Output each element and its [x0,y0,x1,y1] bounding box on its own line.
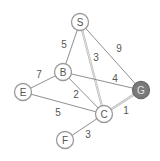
node-label: S [77,17,84,28]
node-label: G [137,85,145,96]
edges-layer [23,22,141,140]
edge-weight-label: 2 [73,89,79,100]
edge-weight-label: 1 [123,105,129,116]
node-b: B [55,64,72,81]
edge-weight-label: 3 [93,52,99,63]
edge-weight-label: 5 [55,107,61,118]
node-g: G [133,82,150,99]
edge-e-c [23,92,104,114]
node-c: C [96,106,113,123]
edge-b-g [63,72,141,90]
weighted-graph-diagram: 539472513 SBECFG [0,0,160,161]
node-f: F [57,132,74,149]
node-label: C [100,109,107,120]
edge-weight-label: 7 [36,69,42,80]
edge-weights-layer: 539472513 [36,39,129,140]
node-label: F [62,135,68,146]
edge-weight-label: 5 [61,39,67,50]
node-e: E [15,84,32,101]
edge-weight-label: 3 [85,129,91,140]
node-s: S [72,14,89,31]
node-label: E [20,87,27,98]
edge-weight-label: 9 [116,43,122,54]
node-label: B [60,67,67,78]
edge-weight-label: 4 [112,73,118,84]
